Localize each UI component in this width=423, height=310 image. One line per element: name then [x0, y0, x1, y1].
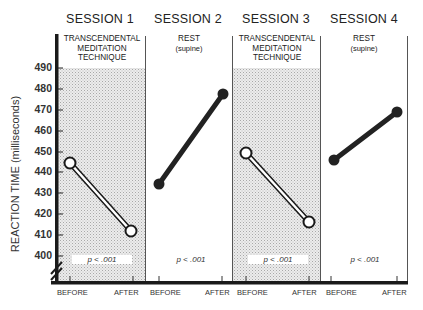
point-s4-before — [329, 155, 340, 166]
point-s2-before — [154, 179, 165, 190]
condition-line: MEDITATION — [234, 44, 320, 54]
pvalue-text: p < .001 — [350, 255, 379, 264]
series-session-2 — [154, 89, 229, 190]
session-3-title: SESSION 3 — [232, 12, 320, 26]
point-s2-after — [218, 89, 229, 100]
ytick-430: 430 — [30, 186, 52, 198]
condition-line: TRANSCENDENTAL — [59, 34, 145, 44]
point-s3-before — [241, 148, 252, 159]
xlabel-s4-before: BEFORE — [326, 288, 357, 297]
point-s3-after — [304, 217, 315, 228]
y-axis — [55, 34, 59, 284]
ytick-480: 480 — [30, 82, 52, 94]
condition-label-session-1: TRANSCENDENTAL MEDITATION TECHNIQUE — [59, 34, 145, 63]
condition-sub: (supine) — [146, 44, 232, 54]
xlabel-s2-before: BEFORE — [150, 288, 181, 297]
ytick-440: 440 — [30, 165, 52, 177]
xlabel-s2-after: AFTER — [205, 288, 230, 297]
xlabel-s3-after: AFTER — [292, 288, 317, 297]
point-s1-after — [126, 226, 137, 237]
condition-line: REST — [146, 34, 232, 44]
condition-line: TECHNIQUE — [234, 53, 320, 63]
ytick-460: 460 — [30, 124, 52, 136]
point-s1-before — [65, 158, 76, 169]
condition-line: TECHNIQUE — [59, 53, 145, 63]
ytick-400: 400 — [30, 249, 52, 261]
condition-sub: (supine) — [321, 44, 407, 54]
session-4-title: SESSION 4 — [320, 12, 408, 26]
pvalue-session-4: p < .001 — [335, 255, 395, 264]
ytick-450: 450 — [30, 145, 52, 157]
condition-line: TRANSCENDENTAL — [234, 34, 320, 44]
pvalue-text: p < .001 — [176, 255, 205, 264]
series-session-4 — [329, 107, 403, 166]
xlabel-s1-before: BEFORE — [57, 288, 88, 297]
x-axis — [51, 281, 408, 285]
point-s4-after — [392, 107, 403, 118]
ytick-490: 490 — [30, 61, 52, 73]
ytick-420: 420 — [30, 207, 52, 219]
session-1-title: SESSION 1 — [56, 12, 144, 26]
pvalue-session-3: p < .001 — [248, 255, 308, 264]
condition-label-session-2: REST (supine) — [146, 34, 232, 53]
panel-shade-session-3 — [233, 68, 320, 282]
y-axis-label: REACTION TIME (milliseconds) — [9, 84, 21, 264]
ytick-470: 470 — [30, 103, 52, 115]
pvalue-text: p < .001 — [87, 255, 116, 264]
xlabel-s4-after: AFTER — [382, 288, 407, 297]
xlabel-s3-before: BEFORE — [237, 288, 268, 297]
pvalue-session-2: p < .001 — [161, 255, 221, 264]
session-2-title: SESSION 2 — [144, 12, 232, 26]
ytick-410: 410 — [30, 228, 52, 240]
condition-line: MEDITATION — [59, 44, 145, 54]
panel-shade-session-1 — [58, 68, 145, 282]
condition-label-session-4: REST (supine) — [321, 34, 407, 53]
condition-label-session-3: TRANSCENDENTAL MEDITATION TECHNIQUE — [234, 34, 320, 63]
condition-line: REST — [321, 34, 407, 44]
pvalue-session-1: p < .001 — [72, 255, 132, 264]
xlabel-s1-after: AFTER — [114, 288, 139, 297]
pvalue-text: p < .001 — [263, 255, 292, 264]
